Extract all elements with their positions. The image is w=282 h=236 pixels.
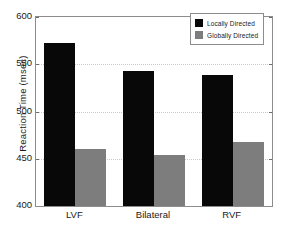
axis-tick-mark xyxy=(269,159,272,160)
axis-tick-mark xyxy=(36,17,39,18)
bar-rvf-locally-directed xyxy=(202,75,233,206)
y-tick-label: 600 xyxy=(6,11,32,21)
axis-tick-mark xyxy=(36,64,39,65)
y-axis-tick-labels: 400450500550600 xyxy=(0,0,32,236)
axis-tick-mark xyxy=(36,112,39,113)
x-tick-label-bilateral: Bilateral xyxy=(114,209,193,220)
y-tick-label: 550 xyxy=(6,58,32,68)
axis-tick-mark xyxy=(269,64,272,65)
legend-label: Locally Directed xyxy=(207,20,255,27)
legend-swatch-icon xyxy=(195,19,203,27)
y-tick-label: 400 xyxy=(6,200,32,210)
bar-bilateral-locally-directed xyxy=(123,71,154,206)
y-tick-label: 450 xyxy=(6,153,32,163)
axis-tick-mark xyxy=(36,206,39,207)
bar-bilateral-globally-directed xyxy=(154,155,185,206)
bar-lvf-globally-directed xyxy=(75,149,106,206)
x-axis-tick-labels: LVFBilateralRVF xyxy=(35,209,273,229)
x-tick-label-lvf: LVF xyxy=(35,209,114,220)
legend-item: Locally Directed xyxy=(195,18,258,28)
axis-tick-mark xyxy=(269,17,272,18)
legend-item: Globally Directed xyxy=(195,30,258,40)
axis-tick-mark xyxy=(269,206,272,207)
axis-tick-mark xyxy=(269,112,272,113)
y-tick-label: 500 xyxy=(6,106,32,116)
legend-swatch-icon xyxy=(195,31,203,39)
chart-figure: Reaction Time (msec) 400450500550600 LVF… xyxy=(0,0,282,236)
x-tick-label-rvf: RVF xyxy=(192,209,271,220)
chart-legend: Locally DirectedGlobally Directed xyxy=(190,13,264,45)
axis-tick-mark xyxy=(36,159,39,160)
bar-rvf-globally-directed xyxy=(233,142,264,206)
bar-lvf-locally-directed xyxy=(44,43,75,206)
legend-label: Globally Directed xyxy=(207,32,258,39)
